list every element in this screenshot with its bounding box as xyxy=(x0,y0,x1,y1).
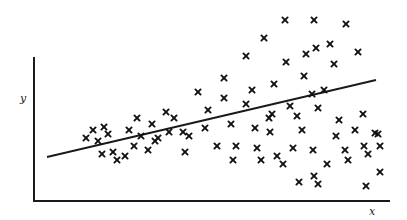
x-marker-icon xyxy=(333,133,338,138)
x-marker-icon xyxy=(280,161,285,166)
x-marker-icon xyxy=(155,135,160,140)
x-marker-icon xyxy=(299,127,304,132)
x-marker-icon xyxy=(261,35,266,40)
data-points xyxy=(83,17,382,188)
x-marker-icon xyxy=(145,147,150,152)
x-marker-icon xyxy=(214,143,219,148)
x-marker-icon xyxy=(282,17,287,22)
x-marker-icon xyxy=(336,117,341,122)
x-marker-icon xyxy=(95,138,100,143)
x-marker-icon xyxy=(324,161,329,166)
x-marker-icon xyxy=(355,49,360,54)
x-marker-icon xyxy=(327,41,332,46)
x-marker-icon xyxy=(90,127,95,132)
x-marker-icon xyxy=(271,81,276,86)
x-axis-label: x xyxy=(369,205,375,218)
x-marker-icon xyxy=(126,127,131,132)
x-marker-icon xyxy=(363,183,368,188)
x-marker-icon xyxy=(365,151,370,156)
x-marker-icon xyxy=(134,115,139,120)
x-marker-icon xyxy=(180,129,185,134)
x-marker-icon xyxy=(342,147,347,152)
x-marker-icon xyxy=(301,73,306,78)
x-marker-icon xyxy=(228,121,233,126)
x-marker-icon xyxy=(254,145,259,150)
x-marker-icon xyxy=(377,169,382,174)
x-marker-icon xyxy=(249,87,254,92)
x-marker-icon xyxy=(101,124,106,129)
x-marker-icon xyxy=(343,21,348,26)
x-marker-icon xyxy=(221,95,226,100)
x-marker-icon xyxy=(83,135,88,140)
x-marker-icon xyxy=(361,143,366,148)
x-marker-icon xyxy=(166,129,171,134)
x-marker-icon xyxy=(163,109,168,114)
x-marker-icon xyxy=(205,107,210,112)
x-marker-icon xyxy=(233,143,238,148)
x-marker-icon xyxy=(345,157,350,162)
x-marker-icon xyxy=(311,173,316,178)
x-marker-icon xyxy=(283,59,288,64)
x-marker-icon xyxy=(287,103,292,108)
x-marker-icon xyxy=(105,131,110,136)
x-marker-icon xyxy=(186,133,191,138)
x-marker-icon xyxy=(221,75,226,80)
y-axis-label: y xyxy=(20,92,26,105)
x-marker-icon xyxy=(110,149,115,154)
x-marker-icon xyxy=(267,129,272,134)
x-marker-icon xyxy=(331,61,336,66)
x-marker-icon xyxy=(294,113,299,118)
x-marker-icon xyxy=(258,157,263,162)
x-marker-icon xyxy=(131,143,136,148)
x-marker-icon xyxy=(230,157,235,162)
x-marker-icon xyxy=(182,149,187,154)
x-marker-icon xyxy=(377,143,382,148)
x-marker-icon xyxy=(202,125,207,130)
x-marker-icon xyxy=(243,53,248,58)
scatter-chart xyxy=(0,0,407,220)
x-marker-icon xyxy=(310,147,315,152)
x-marker-icon xyxy=(252,125,257,130)
x-marker-icon xyxy=(303,51,308,56)
x-marker-icon xyxy=(149,121,154,126)
x-marker-icon xyxy=(315,105,320,110)
x-marker-icon xyxy=(311,17,316,22)
x-marker-icon xyxy=(352,127,357,132)
x-marker-icon xyxy=(114,157,119,162)
x-marker-icon xyxy=(313,45,318,50)
x-marker-icon xyxy=(315,181,320,186)
x-marker-icon xyxy=(122,153,127,158)
x-marker-icon xyxy=(195,89,200,94)
x-marker-icon xyxy=(171,115,176,120)
x-marker-icon xyxy=(360,111,365,116)
x-marker-icon xyxy=(290,145,295,150)
x-marker-icon xyxy=(243,101,248,106)
x-marker-icon xyxy=(274,153,279,158)
x-marker-icon xyxy=(296,179,301,184)
x-marker-icon xyxy=(99,151,104,156)
